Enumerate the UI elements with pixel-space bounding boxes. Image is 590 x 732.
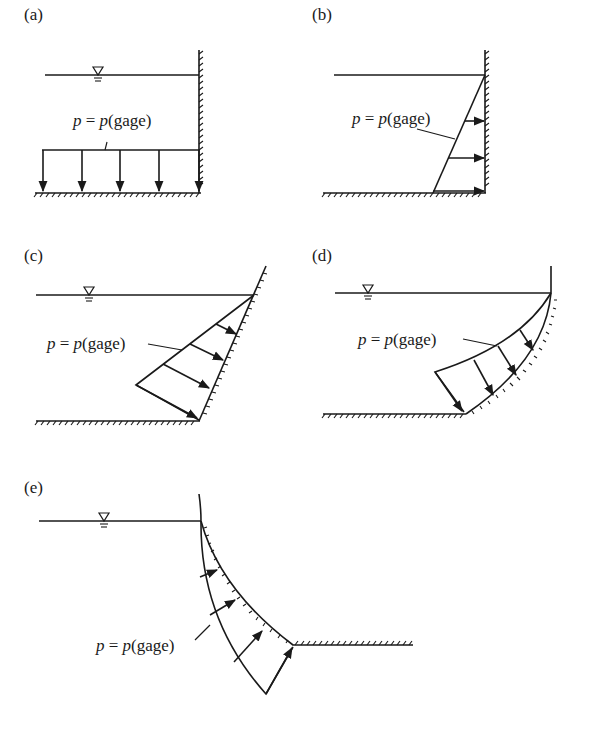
pressure-arrows bbox=[433, 121, 484, 191]
panel-e-label: (e) bbox=[24, 478, 43, 497]
pressure-arrows bbox=[435, 330, 533, 411]
panel-d: (d) p = p(gage) bbox=[312, 246, 557, 418]
pressure-arrows bbox=[43, 150, 199, 191]
leader-line bbox=[195, 625, 210, 640]
pressure-equation: p = p(gage) bbox=[72, 111, 152, 130]
leader-line bbox=[105, 142, 107, 150]
panel-a: (a) p = p(gage) bbox=[24, 5, 203, 197]
panel-d-label: (d) bbox=[312, 246, 332, 265]
pressure-equation: p = p(gage) bbox=[351, 109, 431, 128]
pressure-line bbox=[433, 75, 485, 193]
leader-line bbox=[463, 339, 497, 346]
free-surface-symbol-icon bbox=[93, 67, 103, 81]
free-surface-symbol-icon bbox=[363, 285, 373, 299]
panel-a-label: (a) bbox=[24, 5, 43, 24]
free-surface-symbol-icon bbox=[99, 513, 109, 527]
leader-line bbox=[417, 129, 455, 139]
inclined-wall bbox=[199, 266, 266, 421]
leader-line bbox=[148, 344, 182, 350]
wall-hatch bbox=[203, 273, 267, 414]
panel-b-label: (b) bbox=[312, 5, 332, 24]
panel-c: (c) p = p(gage) bbox=[24, 246, 267, 425]
pressure-line bbox=[201, 521, 293, 694]
panel-b: (b) p = p(gage) bbox=[312, 5, 489, 197]
free-surface-symbol-icon bbox=[84, 287, 94, 301]
curved-wall bbox=[199, 494, 413, 645]
pressure-equation: p = p(gage) bbox=[46, 334, 126, 353]
curved-wall bbox=[466, 266, 551, 414]
pressure-equation: p = p(gage) bbox=[357, 330, 437, 349]
panel-c-label: (c) bbox=[24, 246, 43, 265]
pressure-line bbox=[136, 295, 254, 420]
pressure-equation: p = p(gage) bbox=[95, 636, 175, 655]
wall-hatch bbox=[472, 300, 557, 414]
wall-hatch bbox=[204, 527, 288, 643]
pressure-arrows bbox=[200, 570, 292, 694]
hydrostatic-pressure-figure: (a) p = p(gage) bbox=[0, 0, 590, 732]
panel-e: (e) p = p(gage) bbox=[24, 478, 413, 694]
